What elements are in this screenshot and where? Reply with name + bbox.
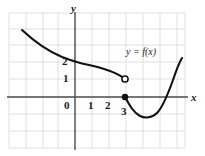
grid-lines (9, 13, 185, 148)
y-tick-2: 2 (62, 56, 68, 67)
x-axis-label: x (191, 92, 197, 103)
function-graph-svg (0, 0, 205, 156)
x-tick-3: 3 (121, 106, 127, 117)
graph-figure: y x 2 1 0 1 2 3 y = f(x) (0, 0, 205, 156)
function-label: y = f(x) (126, 47, 156, 57)
x-tick-2: 2 (105, 100, 111, 111)
y-axis-label: y (71, 3, 76, 14)
origin-label: 0 (64, 100, 70, 111)
filled-dot-marker (122, 94, 129, 101)
open-circle-marker (122, 76, 128, 82)
curve-branch-left (22, 30, 125, 79)
x-tick-1: 1 (88, 100, 94, 111)
curve-branch-right (125, 58, 182, 117)
axes (7, 12, 188, 150)
y-tick-1: 1 (63, 73, 69, 84)
